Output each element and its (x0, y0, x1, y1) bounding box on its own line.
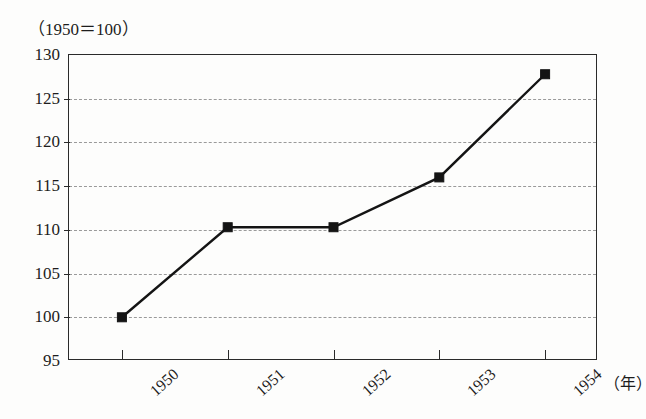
data-point-marker (117, 313, 126, 322)
x-tick-label: 1954 (570, 366, 604, 399)
series-markers (117, 70, 549, 322)
y-tick-label: 115 (35, 177, 60, 194)
x-axis-labels: （年） 19501951195219531954 (0, 360, 636, 419)
y-tick-label: 125 (35, 89, 61, 106)
data-point-marker (223, 223, 232, 232)
data-point-marker (541, 70, 550, 79)
x-tick-label: 1951 (253, 366, 287, 399)
y-tick-label: 105 (35, 264, 61, 281)
y-tick-label: 100 (35, 308, 61, 325)
y-axis-labels: 13012512011511010510095 (0, 0, 68, 419)
x-tick-label: 1952 (359, 366, 393, 399)
x-tick-label: 1953 (465, 366, 499, 399)
x-axis-unit-label: （年） (604, 376, 646, 392)
plot-area (68, 54, 597, 360)
data-point-marker (435, 173, 444, 182)
x-tick-label: 1950 (147, 366, 181, 399)
y-tick-label: 110 (35, 220, 60, 237)
y-tick-label: 130 (35, 46, 61, 63)
y-tick-label: 120 (35, 133, 61, 150)
data-point-marker (329, 223, 338, 232)
data-series-layer (69, 55, 598, 361)
series-line-index (122, 74, 545, 317)
